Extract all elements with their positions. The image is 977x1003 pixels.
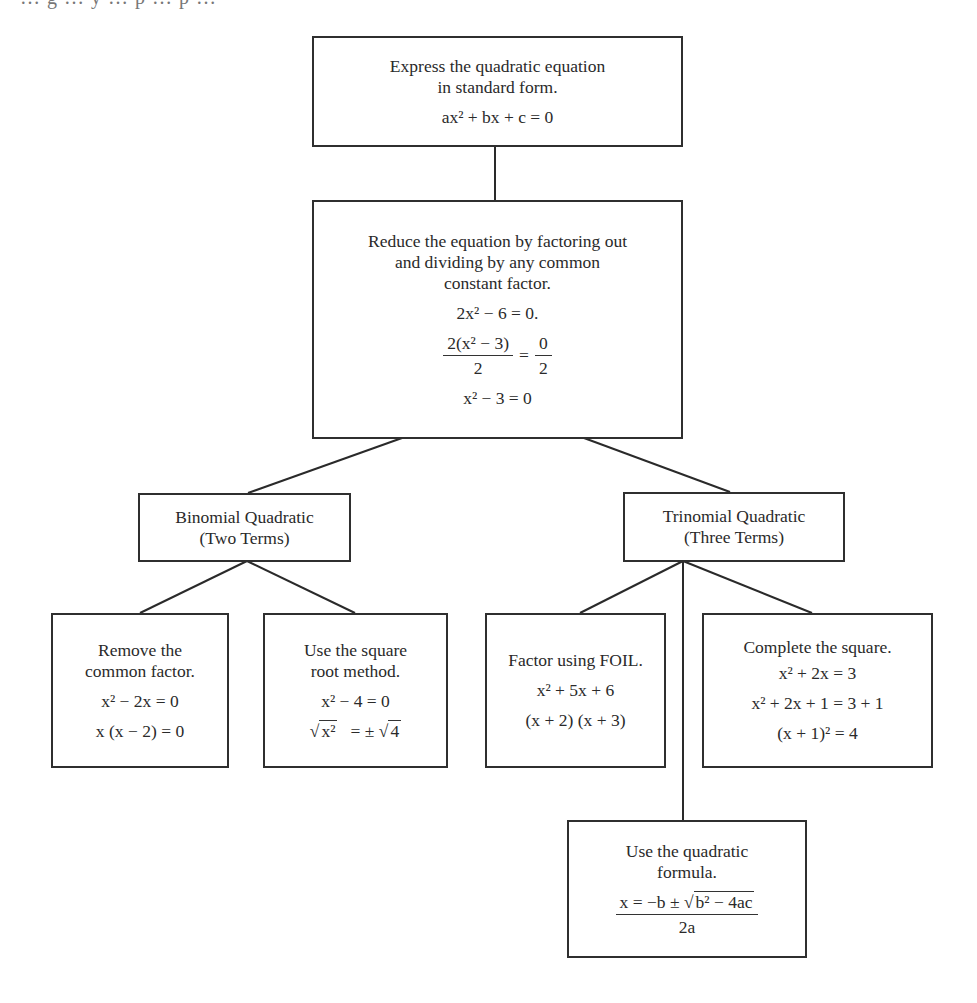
standard-form-box: Express the quadratic equation in standa…: [312, 36, 683, 147]
fraction-denominator: 2: [539, 356, 548, 379]
quadratic-formula-box: Use the quadratic formula. x = −b ± √b² …: [567, 820, 807, 958]
binomial-line-2: (Two Terms): [199, 528, 289, 549]
formula-line-2: formula.: [657, 862, 717, 883]
equals-sign: =: [519, 344, 529, 366]
reduce-equation-1: 2x² − 6 = 0.: [457, 302, 539, 324]
reduce-equation-2: 2(x² − 3) 2 = 0 2: [443, 332, 551, 379]
trinomial-to-complete-line: [683, 561, 812, 613]
complete-equation-2: x² + 2x + 1 = 3 + 1: [751, 692, 883, 714]
trinomial-line-2: (Three Terms): [684, 527, 784, 548]
reduce-equation-box: Reduce the equation by factoring out and…: [312, 200, 683, 439]
remove-line-1: Remove the: [98, 640, 182, 661]
radical-sign-icon: √: [684, 892, 694, 912]
formula-numerator: x = −b ± √b² − 4ac: [616, 891, 759, 915]
trinomial-quadratic-box: Trinomial Quadratic (Three Terms): [623, 492, 845, 562]
foil-line-1: Factor using FOIL.: [508, 650, 643, 671]
trinomial-to-foil-line: [580, 561, 683, 613]
sqrt-line-1: Use the square: [304, 640, 407, 661]
reduce-to-binomial-line: [248, 438, 402, 493]
radical-sign-icon: √: [379, 721, 389, 741]
reduce-fraction-left: 2(x² − 3) 2: [443, 332, 513, 379]
formula-line-1: Use the quadratic: [626, 841, 748, 862]
standard-form-line-2: in standard form.: [437, 77, 557, 98]
formula-numerator-left: x = −b ±: [620, 892, 680, 912]
binomial-line-1: Binomial Quadratic: [175, 507, 314, 528]
standard-form-line-1: Express the quadratic equation: [390, 56, 605, 77]
equals-plus-minus: = ±: [351, 721, 375, 741]
radicand-left: x²: [319, 720, 337, 741]
binomial-to-remove-line: [140, 561, 247, 613]
complete-square-box: Complete the square. x² + 2x = 3 x² + 2x…: [702, 613, 933, 768]
complete-line-1: Complete the square.: [743, 637, 891, 658]
discriminant: b² − 4ac: [694, 891, 755, 912]
remove-equation-2: x (x − 2) = 0: [96, 720, 184, 742]
radicand-right: 4: [388, 720, 401, 741]
reduce-equation-3: x² − 3 = 0: [463, 387, 532, 409]
foil-equation-1: x² + 5x + 6: [537, 679, 615, 701]
fraction-numerator: 0: [535, 332, 552, 356]
complete-equation-3: (x + 1)² = 4: [777, 722, 857, 744]
remove-line-2: common factor.: [85, 661, 195, 682]
reduce-fraction-right: 0 2: [535, 332, 552, 379]
radical-sign-icon: √: [310, 721, 320, 741]
fraction-numerator: 2(x² − 3): [443, 332, 513, 356]
reduce-line-2: and dividing by any common: [395, 252, 600, 273]
formula-denominator: 2a: [679, 915, 696, 938]
quadratic-formula-equation: x = −b ± √b² − 4ac 2a: [616, 891, 759, 938]
reduce-to-trinomial-line: [584, 438, 730, 492]
binomial-to-sqrt-line: [247, 561, 355, 613]
square-root-method-box: Use the square root method. x² − 4 = 0 √…: [263, 613, 448, 768]
remove-equation-1: x² − 2x = 0: [101, 690, 179, 712]
standard-form-equation: ax² + bx + c = 0: [442, 106, 554, 128]
sqrt-equation-2: √x² = ± √4: [310, 720, 401, 742]
binomial-quadratic-box: Binomial Quadratic (Two Terms): [138, 493, 351, 562]
foil-equation-2: (x + 2) (x + 3): [526, 709, 626, 731]
reduce-line-3: constant factor.: [444, 273, 551, 294]
reduce-line-1: Reduce the equation by factoring out: [368, 231, 627, 252]
complete-equation-1: x² + 2x = 3: [779, 662, 857, 684]
trinomial-line-1: Trinomial Quadratic: [663, 506, 806, 527]
sqrt-line-2: root method.: [311, 661, 400, 682]
remove-common-factor-box: Remove the common factor. x² − 2x = 0 x …: [51, 613, 229, 768]
sqrt-equation-1: x² − 4 = 0: [321, 690, 390, 712]
factor-foil-box: Factor using FOIL. x² + 5x + 6 (x + 2) (…: [485, 613, 666, 768]
formula-fraction: x = −b ± √b² − 4ac 2a: [616, 891, 759, 938]
fraction-denominator: 2: [474, 356, 483, 379]
